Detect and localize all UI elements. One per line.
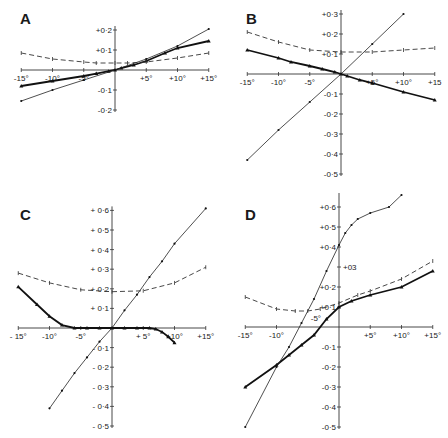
y-tick-label: - 0·1 xyxy=(93,344,110,353)
y-tick-label: - 0·2 xyxy=(93,363,110,372)
x-tick-label: - 15° xyxy=(10,332,27,341)
panel-a: -15°-10°-5°+5°+10°+15°+0·2+0·1-0·1-0·2A xyxy=(14,10,217,115)
y-tick-label: -0·1 xyxy=(322,343,337,352)
x-tick-label: -5° xyxy=(305,78,315,87)
y-tick-label: + 0·3 xyxy=(91,265,110,274)
panel-c: - 15°-10°-5°+ 5°+10°+15°+ 0·6+ 0·5+ 0·4+… xyxy=(10,206,214,431)
data-point xyxy=(313,298,315,300)
x-tick-label: -10° xyxy=(271,78,286,87)
x-tick-label: +10° xyxy=(395,78,412,87)
data-point xyxy=(173,243,175,245)
data-point xyxy=(300,322,302,324)
data-point xyxy=(176,45,178,47)
data-point xyxy=(388,206,390,208)
y-tick-label: +0·2 xyxy=(322,30,339,39)
series-thin xyxy=(50,208,206,408)
data-point xyxy=(205,207,207,209)
data-point xyxy=(161,260,163,262)
data-point xyxy=(51,89,53,91)
data-point xyxy=(371,43,373,45)
y-tick-label: -0·2 xyxy=(98,106,113,115)
y-tick-label: +0·2 xyxy=(320,283,337,292)
y-tick-label: -0·5 xyxy=(322,423,337,432)
data-point xyxy=(123,309,125,311)
data-point xyxy=(350,224,352,226)
y-tick-label: -0·1 xyxy=(324,90,339,99)
data-point xyxy=(136,294,138,296)
y-tick-label: + 0·6 xyxy=(91,206,110,215)
x-tick-label: +15° xyxy=(424,331,441,340)
data-point xyxy=(208,28,210,30)
y-tick-label: +0·4 xyxy=(320,243,337,252)
data-point xyxy=(114,69,116,71)
panel-label: A xyxy=(20,10,31,27)
y-tick-label: +0·5 xyxy=(320,223,337,232)
data-point xyxy=(246,159,248,161)
y-tick-label: -0·5 xyxy=(324,170,339,179)
data-point xyxy=(309,101,311,103)
data-point xyxy=(111,327,113,329)
y-tick-label: +03 xyxy=(343,263,357,272)
panel-b: -15°-10°-5°+5°+10°+15+0·3+0·2+0·1-0·1-0·… xyxy=(240,10,442,179)
data-point xyxy=(16,285,20,289)
x-tick-label: +5° xyxy=(364,331,376,340)
y-tick-label: -0·4 xyxy=(324,150,339,159)
x-tick-label: +10° xyxy=(169,74,186,83)
x-tick-label: -15° xyxy=(240,78,255,87)
y-tick-label: +0·3 xyxy=(322,10,339,19)
figure: -15°-10°-5°+5°+10°+15°+0·2+0·1-0·1-0·2A … xyxy=(0,0,448,438)
x-tick-label: +15 xyxy=(428,78,442,87)
data-point xyxy=(48,407,50,409)
data-point xyxy=(83,79,85,81)
panel-label: C xyxy=(20,206,31,223)
y-tick-label: +0·1 xyxy=(96,46,113,55)
data-point xyxy=(73,372,75,374)
x-tick-label: -10° xyxy=(269,331,284,340)
chart-canvas: -15°-10°-5°+5°+10°+15°+0·2+0·1-0·1-0·2A … xyxy=(0,0,448,438)
data-point xyxy=(340,73,342,75)
data-point xyxy=(402,13,404,15)
y-tick-label: +0·6 xyxy=(320,203,337,212)
y-tick-label: - 0·5 xyxy=(93,422,110,431)
y-tick-label: -0·3 xyxy=(322,383,337,392)
y-tick-label: -0·1 xyxy=(98,86,113,95)
x-tick-label: -15° xyxy=(238,331,253,340)
y-tick-label: + 0·1 xyxy=(91,304,110,313)
y-tick-label: -0·4 xyxy=(322,403,337,412)
y-tick-label: - 0·3 xyxy=(93,383,110,392)
data-point xyxy=(244,426,246,428)
y-tick-label: + 0·5 xyxy=(91,226,110,235)
data-point xyxy=(148,276,150,278)
data-point xyxy=(61,390,63,392)
data-point xyxy=(338,244,340,246)
data-point xyxy=(145,58,147,60)
panel-label: D xyxy=(245,206,256,223)
x-tick-label: +5° xyxy=(140,74,152,83)
data-point xyxy=(288,346,290,348)
data-point xyxy=(400,194,402,196)
data-point xyxy=(277,129,279,131)
data-point xyxy=(357,218,359,220)
panel-label: B xyxy=(246,10,257,27)
y-tick-label: -0·2 xyxy=(322,363,337,372)
y-tick-label: - 0·4 xyxy=(93,402,110,411)
data-point xyxy=(344,232,346,234)
data-point xyxy=(86,356,88,358)
y-tick-label: +0·2 xyxy=(96,26,113,35)
annotation: -5° xyxy=(311,314,321,323)
x-tick-label: +15° xyxy=(197,332,214,341)
panel-d: -15°-10°+5°+10°+15°+0·6+0·5+0·4+03+0·2+0… xyxy=(238,193,441,432)
y-tick-label: -0·2 xyxy=(324,110,339,119)
x-tick-label: +10° xyxy=(393,331,410,340)
y-tick-label: + 0·2 xyxy=(91,285,110,294)
x-tick-label: -15° xyxy=(14,74,29,83)
x-tick-label: -10° xyxy=(42,332,57,341)
x-tick-label: +15° xyxy=(200,74,217,83)
y-tick-label: + 0·4 xyxy=(91,246,110,255)
x-tick-label: + 5° xyxy=(136,332,151,341)
y-tick-label: -0·3 xyxy=(324,130,339,139)
data-point xyxy=(369,212,371,214)
data-point xyxy=(325,270,327,272)
x-tick-label: -5° xyxy=(76,332,86,341)
data-point xyxy=(98,341,100,343)
